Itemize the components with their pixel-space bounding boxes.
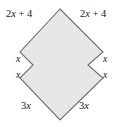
label-top-left-constant: + 4 [16, 8, 32, 19]
label-top-right-constant: + 4 [90, 8, 106, 19]
label-left-upper-notch: x [16, 54, 20, 64]
label-top-right-side: 2x + 4 [80, 9, 106, 20]
label-left-lower-notch: x [16, 70, 20, 80]
label-bottom-left-variable: x [26, 100, 31, 111]
shaded-polygon [20, 9, 103, 120]
label-right-upper-variable: x [103, 53, 107, 64]
label-bottom-left-side: 3x [21, 101, 31, 112]
label-right-upper-notch: x [103, 54, 107, 64]
label-left-lower-variable: x [16, 69, 20, 80]
geometry-polygon-figure: 2x + 4 2x + 4 x x x x 3x 3x [0, 0, 121, 127]
label-top-left-side: 2x + 4 [6, 9, 32, 20]
label-bottom-right-variable: x [84, 100, 89, 111]
label-bottom-right-side: 3x [79, 101, 89, 112]
label-right-lower-notch: x [103, 70, 107, 80]
label-right-lower-variable: x [103, 69, 107, 80]
label-left-upper-variable: x [16, 53, 20, 64]
